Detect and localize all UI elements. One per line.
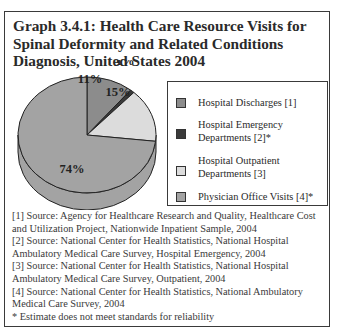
legend-text: Hospital Emergency [198,119,283,130]
legend-label-hospital-outpatient: Hospital Outpatient Departments [3] [198,154,280,180]
chart-legend: Hospital Discharges [1] Hospital Emergen… [167,81,328,206]
source-notes: [1] Source: Agency for Healthcare Resear… [12,210,330,323]
legend-label-physician-office: Physician Office Visits [4]* [198,190,313,203]
legend-swatch-hospital-discharges [176,98,186,108]
pie-data-label: 74% [60,162,85,176]
note-4: [4] Source: National Center for Health S… [12,286,330,311]
legend-swatch-physician-office [176,192,186,202]
legend-text: Physician Office Visits [4]* [198,191,313,202]
legend-swatch-hospital-emergency [176,129,186,139]
legend-text: Hospital Outpatient [198,155,280,166]
pie-data-label: 15% [106,85,131,99]
note-reliability: * Estimate does not meet standards for r… [12,311,330,324]
legend-label-hospital-emergency: Hospital Emergency Departments [2]* [198,118,283,144]
legend-text: Departments [3] [198,168,266,179]
pie-data-label: 11% [78,72,102,86]
note-1: [1] Source: Agency for Healthcare Resear… [12,210,330,235]
pie-top-face [18,77,156,193]
legend-swatch-hospital-outpatient [176,166,186,176]
legend-label-hospital-discharges: Hospital Discharges [1] [198,96,297,109]
pie-chart: 11%1%15%74% [9,60,169,210]
note-3: [3] Source: National Center for Health S… [12,260,330,285]
legend-text: Hospital Discharges [1] [198,97,297,108]
note-2: [2] Source: National Center for Health S… [12,235,330,260]
pie-data-label: 1% [116,60,135,68]
graph-frame: Graph 3.4.1: Health Care Resource Visits… [4,11,330,327]
legend-text: Departments [2]* [198,132,271,143]
